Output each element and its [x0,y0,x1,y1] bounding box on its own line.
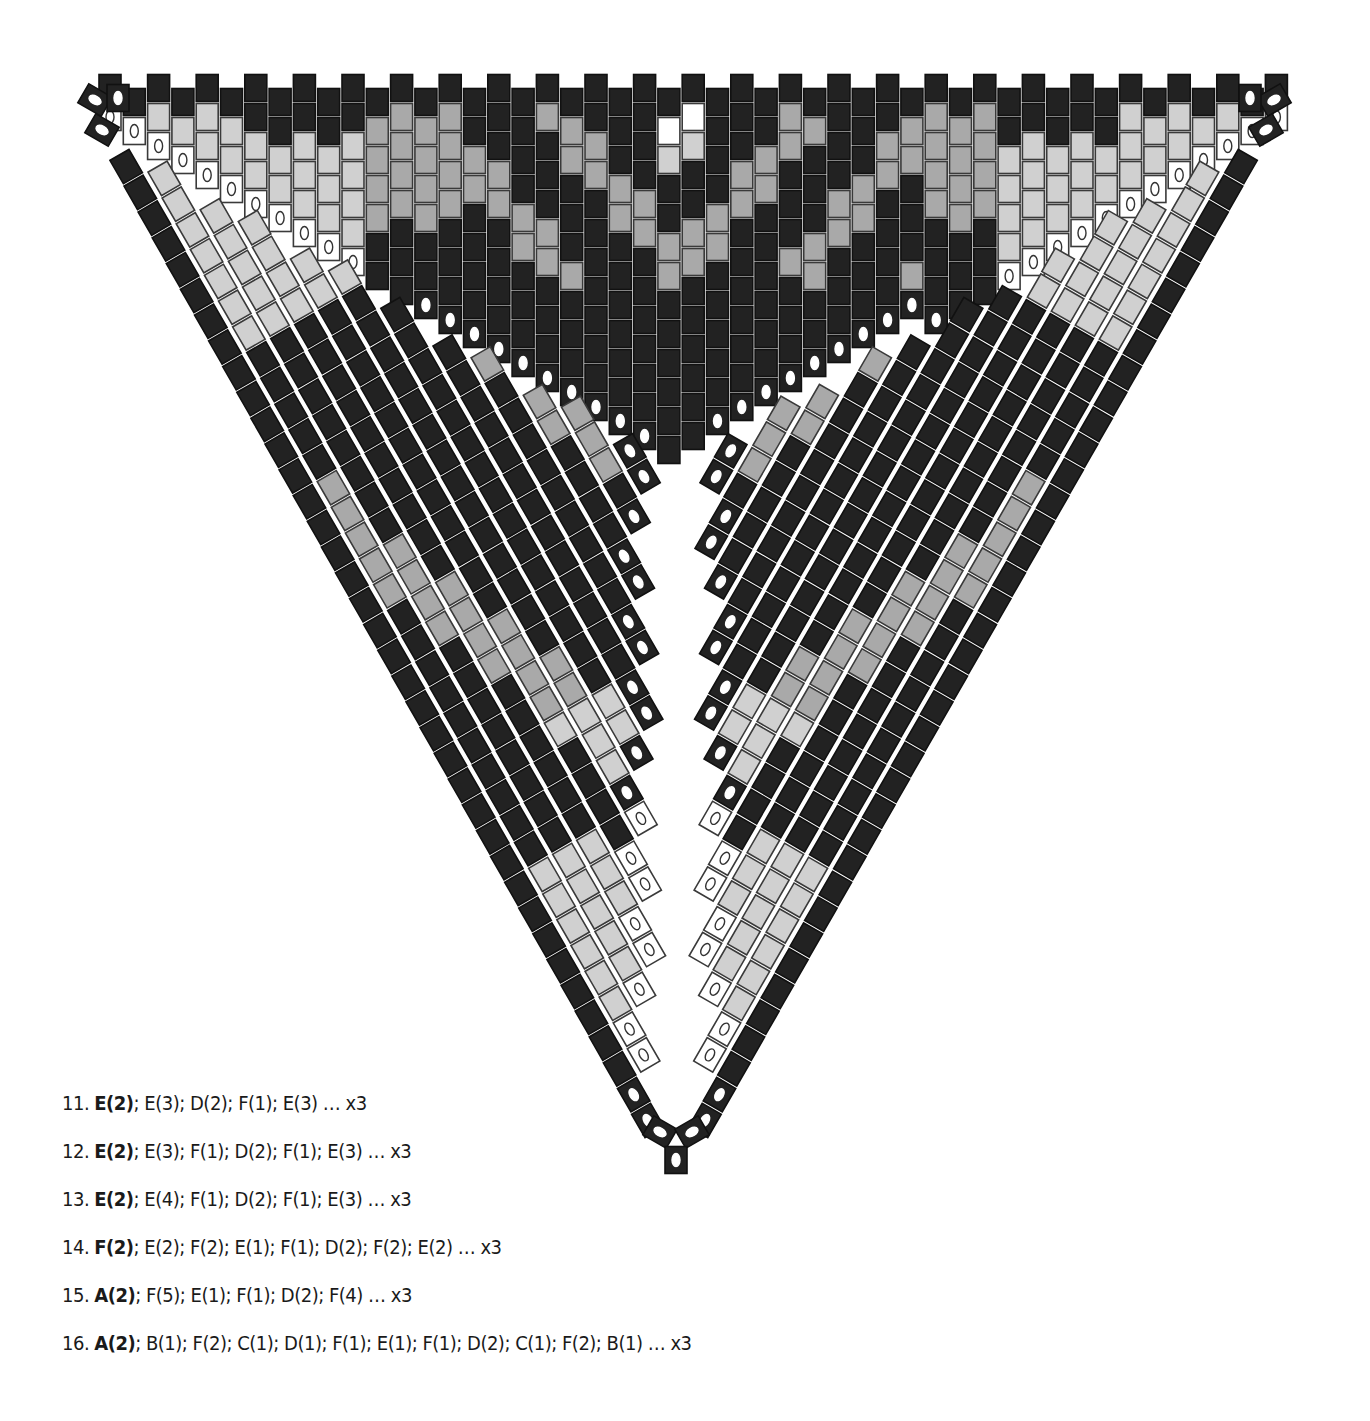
bead [536,336,558,363]
bead [415,205,437,232]
bead-hole-icon [641,430,649,443]
bead [925,133,947,160]
bead-hole-icon [932,314,940,327]
bead-hole-icon [884,314,892,327]
bead [342,162,364,189]
bead-hole-icon [714,415,722,428]
bead [974,220,996,247]
bead [318,234,340,261]
bead [293,162,315,189]
bead [998,89,1020,116]
instruction-row-15: 15. A(2); F(5); E(1); F(1); D(2); F(4) …… [62,1280,691,1328]
bead [221,118,243,145]
bead [172,147,194,174]
bead [901,118,923,145]
bead [488,307,510,334]
bead [609,89,631,116]
bead [682,278,704,305]
bead [828,75,850,102]
bead [634,249,656,276]
bead [1144,147,1166,174]
bead [901,147,923,174]
bead [172,118,194,145]
bead [1047,205,1069,232]
bead [464,118,486,145]
bead [464,89,486,116]
bead [779,336,801,363]
bead [731,162,753,189]
bead [293,191,315,218]
bead [415,263,437,290]
bead [828,162,850,189]
bead [391,249,413,276]
bead [585,75,607,102]
bead [391,133,413,160]
bead [196,162,218,189]
bead [366,147,388,174]
bead [1022,191,1044,218]
bead [707,263,729,290]
bead [561,205,583,232]
bead [682,394,704,421]
bead [1144,118,1166,145]
bead [658,263,680,290]
bead [464,176,486,203]
bead [439,133,461,160]
bead [464,234,486,261]
bead [828,278,850,305]
bead [998,176,1020,203]
bead [634,191,656,218]
bead [221,147,243,174]
bead [1071,133,1093,160]
bead-hole-icon [519,357,527,370]
bead [585,133,607,160]
bead [755,89,777,116]
bead [366,234,388,261]
bead [925,162,947,189]
bead [391,191,413,218]
bead [439,75,461,102]
bead-hole-icon [446,314,454,327]
bead [658,437,680,464]
bead [658,379,680,406]
bead-hole-icon [738,401,746,414]
bead [707,89,729,116]
bead [415,118,437,145]
bead [342,75,364,102]
bead-hole-icon [1246,92,1254,105]
bead [609,350,631,377]
bead [1022,162,1044,189]
bead [707,176,729,203]
bead [707,350,729,377]
bead [901,234,923,261]
bead [998,118,1020,145]
bead [755,147,777,174]
bead [464,263,486,290]
bead [950,118,972,145]
bead [609,321,631,348]
bead [366,205,388,232]
bead [318,118,340,145]
bead [536,220,558,247]
bead [561,147,583,174]
bead [877,162,899,189]
bead [342,191,364,218]
bead [536,278,558,305]
bead [779,104,801,131]
bead [731,75,753,102]
bead [804,147,826,174]
bead [901,263,923,290]
bead [269,205,291,232]
bead [366,89,388,116]
bead [488,75,510,102]
bead [731,365,753,392]
bead [123,118,145,145]
bead [925,220,947,247]
bead [877,278,899,305]
bead [731,220,753,247]
bead [658,205,680,232]
bead [779,75,801,102]
bead-hole-icon [495,343,503,356]
bead [561,263,583,290]
bead [1120,104,1142,131]
